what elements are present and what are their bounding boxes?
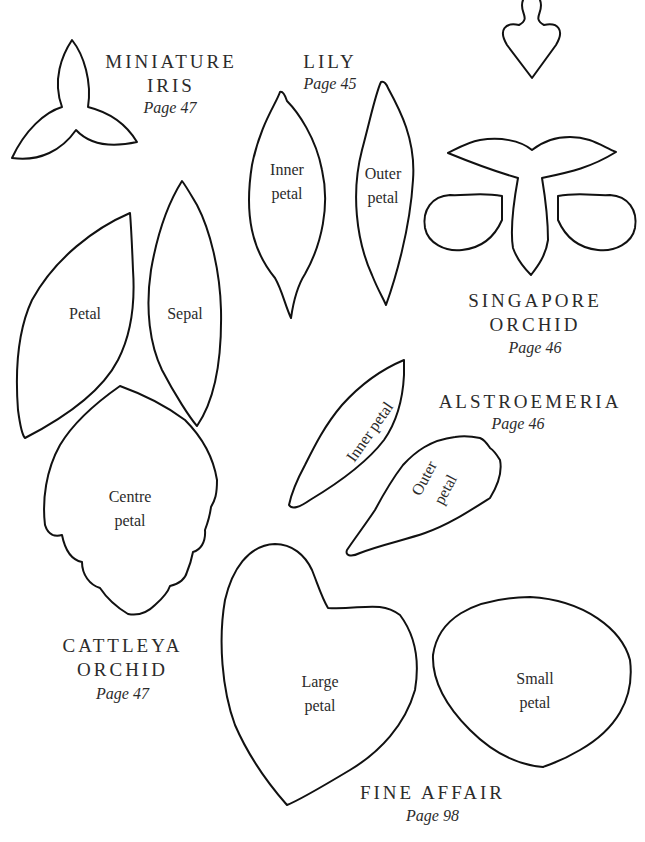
singapore-orchid-title: SINGAPORE ORCHID	[440, 289, 630, 337]
alstroemeria-inner-petal-shape	[289, 360, 404, 507]
miniature-iris-title-line2: IRIS	[98, 74, 244, 98]
cattleya-sepal-label: Sepal	[150, 302, 220, 326]
cattleya-orchid-title: CATTLEYA ORCHID	[50, 634, 195, 682]
singapore-orchid-title-line1: SINGAPORE	[440, 289, 630, 313]
lily-inner-petal-label: Inner petal	[254, 158, 320, 206]
miniature-iris-title-line1: MINIATURE	[98, 50, 244, 74]
lily-outer-petal-label: Outer petal	[352, 162, 414, 210]
singapore-orchid-page-ref: Page 46	[475, 338, 595, 358]
singapore-orchid-right-petal-shape	[558, 194, 636, 250]
cattleya-orchid-page-ref: Page 47	[70, 684, 175, 704]
cattleya-orchid-title-line2: ORCHID	[50, 658, 195, 682]
cattleya-petal-label: Petal	[50, 302, 120, 326]
miniature-iris-page-ref: Page 47	[110, 98, 230, 118]
fine-affair-small-petal-label: Small petal	[500, 667, 570, 715]
fine-affair-large-petal-label: Large petal	[285, 670, 355, 718]
singapore-orchid-body-shape	[448, 137, 616, 275]
lily-title: LILY	[290, 50, 370, 74]
miniature-iris-title: MINIATURE IRIS	[98, 50, 244, 98]
lily-page-ref: Page 45	[280, 74, 380, 94]
cattleya-centre-petal-label: Centre petal	[95, 485, 165, 533]
alstroemeria-page-ref: Page 46	[468, 414, 568, 434]
cattleya-orchid-title-line1: CATTLEYA	[50, 634, 195, 658]
singapore-orchid-title-line2: ORCHID	[440, 313, 630, 337]
fine-affair-title: FINE AFFAIR	[350, 781, 515, 805]
singapore-orchid-left-petal-shape	[424, 194, 502, 250]
alstroemeria-title: ALSTROEMERIA	[420, 390, 640, 414]
fine-affair-page-ref: Page 98	[385, 806, 480, 826]
singapore-orchid-top-shape	[503, 0, 560, 78]
